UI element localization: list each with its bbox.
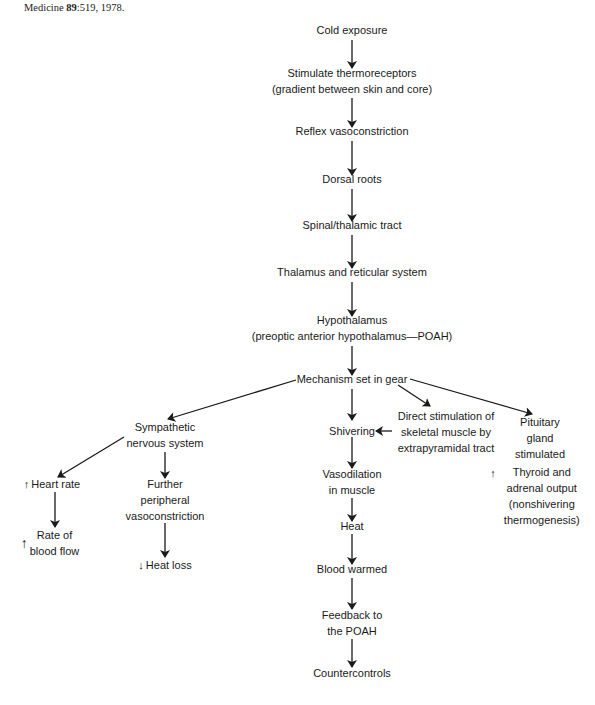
node-countercontrols: Countercontrols [313, 665, 391, 681]
increase-arrow-icon: ↑ [490, 465, 496, 481]
node-hypothalamus: Hypothalamus (preoptic anterior hypothal… [252, 312, 453, 344]
node-feedback-to-poah: Feedback to the POAH [322, 607, 383, 639]
node-pituitary-gland: Pituitary gland stimulated [515, 414, 565, 462]
node-mechanism-set-in-gear: Mechanism set in gear [297, 371, 408, 387]
node-direct-stimulation: Direct stimulation of skeletal muscle by… [398, 408, 495, 456]
node-rate-of-blood-flow: ↑ Rate of blood flow [21, 527, 80, 559]
increase-arrow-icon: ↑ [24, 476, 30, 492]
decrease-arrow-icon: ↓ [138, 557, 144, 573]
node-reflex-vasoconstriction: Reflex vasoconstriction [295, 123, 408, 139]
node-heart-rate: ↑Heart rate [24, 476, 80, 492]
node-cold-exposure: Cold exposure [317, 22, 388, 38]
node-heat-loss: ↓Heat loss [138, 557, 191, 573]
node-spinal-thalamic-tract: Spinal/thalamic tract [302, 217, 401, 233]
flow-arrows [0, 0, 595, 705]
arrow-mechanism-to-direct [398, 385, 430, 406]
arrow-mechanism-to-sympathetic [168, 380, 296, 419]
node-further-peripheral-vasoconstriction: Further peripheral vasoconstriction [126, 476, 205, 524]
node-vasodilation-in-muscle: Vasodilation in muscle [322, 466, 381, 498]
node-thyroid-adrenal-output: ↑ Thyroid and adrenal output (nonshiveri… [490, 464, 579, 528]
node-sympathetic-nervous-system: Sympathetic nervous system [126, 419, 203, 451]
node-heat: Heat [340, 518, 363, 534]
node-dorsal-roots: Dorsal roots [322, 171, 381, 187]
node-shivering: Shivering [329, 423, 375, 439]
arrow-sympathetic-to-heart-rate [58, 437, 124, 477]
increase-arrow-icon: ↑ [21, 535, 28, 551]
node-thalamus: Thalamus and reticular system [277, 264, 427, 280]
node-stimulate-thermoreceptors: Stimulate thermoreceptors (gradient betw… [272, 65, 432, 97]
node-blood-warmed: Blood warmed [317, 561, 387, 577]
